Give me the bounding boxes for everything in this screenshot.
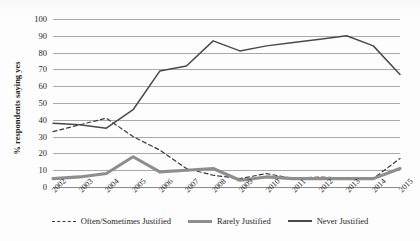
dashed-line-icon (52, 221, 76, 222)
y-axis-tick-label: 80 (39, 48, 48, 58)
series-layer (53, 19, 400, 187)
legend-item[interactable]: Never Justified (288, 216, 369, 226)
chart-legend: Often/Sometimes JustifiedRarely Justifie… (0, 216, 420, 226)
y-axis-tick-label: 10 (39, 165, 48, 175)
thick-line-icon (188, 220, 212, 223)
y-axis-tick-label: 90 (39, 31, 48, 41)
chart-title-strip (0, 0, 420, 7)
legend-label: Often/Sometimes Justified (81, 216, 171, 226)
series-line (53, 36, 400, 128)
y-axis-tick-label: 50 (39, 98, 48, 108)
legend-item[interactable]: Often/Sometimes Justified (52, 216, 171, 226)
legend-label: Rarely Justified (217, 216, 271, 226)
legend-label: Never Justified (317, 216, 369, 226)
y-axis-tick-labels: 0102030405060708090100 (0, 19, 53, 187)
plot-area (53, 19, 400, 187)
legend-item[interactable]: Rarely Justified (188, 216, 271, 226)
y-axis-tick-label: 100 (34, 14, 47, 24)
y-axis-tick-label: 30 (39, 132, 48, 142)
chart-figure: % respondents saying yes 010203040506070… (0, 0, 420, 241)
series-line (53, 118, 400, 178)
thin-line-icon (288, 220, 312, 222)
y-axis-tick-label: 60 (39, 81, 48, 91)
y-axis-tick-label: 40 (39, 115, 48, 125)
x-axis-tick-labels: 2002200320042005200620072008200920102011… (53, 188, 400, 214)
y-axis-tick-label: 70 (39, 64, 48, 74)
y-axis-tick-label: 20 (39, 148, 48, 158)
y-axis-tick-label: 0 (43, 182, 47, 192)
